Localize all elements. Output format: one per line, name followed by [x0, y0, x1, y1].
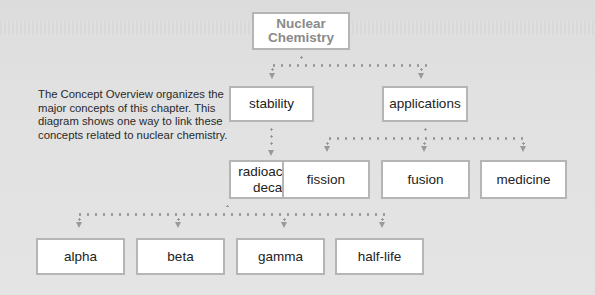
arrow-down-icon	[175, 222, 181, 228]
arrow-down-icon	[379, 222, 385, 228]
connector	[270, 64, 430, 67]
connector	[78, 216, 81, 221]
node-alpha: alpha	[36, 238, 125, 275]
node-stability: stability	[229, 86, 314, 122]
connector	[177, 216, 180, 221]
arrow-down-icon	[76, 222, 82, 228]
connector	[283, 216, 286, 221]
arrow-down-icon	[281, 222, 287, 228]
connector	[423, 140, 426, 145]
arrow-down-icon	[421, 146, 427, 152]
node-label: fission	[307, 172, 345, 188]
arrow-down-icon	[268, 150, 274, 156]
node-label: stability	[249, 96, 294, 112]
connector	[270, 126, 273, 148]
node-half-life: half-life	[335, 238, 424, 275]
node-label: fusion	[407, 172, 443, 188]
arrow-down-icon	[269, 73, 275, 79]
arrow-down-icon	[324, 146, 330, 152]
node-gamma: gamma	[236, 238, 325, 275]
node-beta: beta	[136, 238, 225, 275]
connector	[326, 140, 329, 145]
node-applications: applications	[382, 86, 468, 122]
connector	[271, 66, 274, 72]
node-label: alpha	[64, 249, 97, 265]
connector	[300, 54, 303, 60]
connector	[326, 137, 526, 140]
node-label: applications	[389, 96, 460, 112]
connector	[424, 126, 427, 132]
connector	[522, 140, 525, 145]
concept-overview-description: The Concept Overview organizes the major…	[38, 88, 238, 142]
connector	[420, 66, 423, 72]
node-label: half-life	[358, 249, 402, 265]
connector	[226, 203, 229, 207]
connector	[381, 216, 384, 221]
node-medicine: medicine	[480, 160, 567, 199]
root-label-line2: Chemistry	[268, 31, 334, 45]
node-label: gamma	[258, 249, 303, 265]
node-fusion: fusion	[381, 160, 470, 199]
node-nuclear-chemistry: Nuclear Chemistry	[252, 12, 350, 50]
node-fission: fission	[282, 160, 370, 199]
node-label: beta	[167, 249, 193, 265]
arrow-down-icon	[520, 146, 526, 152]
connector	[76, 213, 386, 216]
node-label: medicine	[496, 172, 550, 188]
root-label-line1: Nuclear	[276, 17, 326, 31]
arrow-down-icon	[418, 73, 424, 79]
